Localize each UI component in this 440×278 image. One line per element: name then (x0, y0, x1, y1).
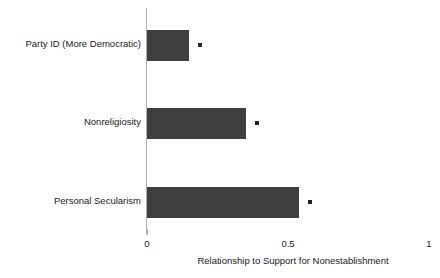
category-label-0-wrap: Party ID (More Democratic) (0, 38, 141, 50)
x-axis-title-text: Relationship to Support for Nonestablish… (197, 255, 388, 266)
category-label-1-wrap: Nonreligiosity (0, 116, 141, 128)
category-label-2-wrap: Personal Secularism (0, 195, 141, 207)
category-label-2: Personal Secularism (1, 195, 141, 207)
category-label-1: Nonreligiosity (1, 116, 141, 128)
significance-marker-2 (308, 200, 312, 204)
x-tick-label-0: 0 (144, 238, 149, 249)
significance-marker-1 (255, 121, 259, 125)
x-tick-label-2: 1 (426, 238, 431, 249)
x-tick-label-1: 0.5 (281, 238, 294, 249)
bar-personal-secularism (147, 187, 299, 218)
bar-party-id (147, 30, 189, 61)
x-axis-title: Relationship to Support for Nonestablish… (0, 255, 440, 266)
bar-chart: Party ID (More Democratic) Nonreligiosit… (0, 0, 440, 278)
category-label-0: Party ID (More Democratic) (1, 38, 141, 50)
bar-nonreligiosity (147, 108, 246, 139)
significance-marker-0 (198, 43, 202, 47)
x-tick-mark-0 (147, 229, 148, 235)
